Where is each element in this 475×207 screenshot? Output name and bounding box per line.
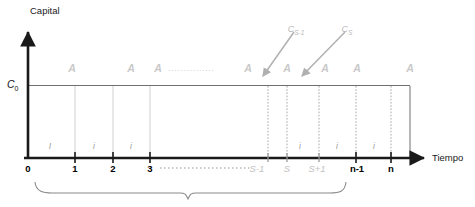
- period-gridlines: [75, 86, 150, 157]
- initial-capital-label: C0: [7, 79, 19, 92]
- interest-label-1: I: [49, 142, 51, 151]
- initial-capital-subscript: 0: [15, 85, 19, 92]
- axis-tick-label-0: 0: [25, 164, 30, 174]
- cash-flow-timeline-diagram: Capital Tiempo C0 ............... AAAAAA…: [0, 0, 475, 207]
- axis-tick-label-2: 2: [110, 164, 115, 174]
- axis-tick-label-s-1: S-1: [250, 164, 265, 174]
- interest-label-5: i: [336, 142, 338, 151]
- period-span-brace: [35, 182, 346, 199]
- annuity-label-6: A: [321, 63, 329, 74]
- axis-tick-label-3: 3: [147, 164, 152, 174]
- interest-label-3: i: [130, 142, 132, 151]
- diagram-vector-layer: [0, 0, 475, 207]
- annuity-label-4: A: [244, 63, 252, 74]
- axis-tick-label-s: S: [284, 164, 290, 174]
- tiempo-axis-label: Tiempo: [432, 153, 463, 163]
- axis-tick-label-s-1: S+1: [308, 164, 325, 174]
- callout-label-1: CS-1: [288, 25, 305, 36]
- callout-subscript: S: [348, 29, 352, 36]
- annuity-label-3: A: [154, 63, 162, 74]
- callout-label-2: CS: [342, 25, 353, 36]
- annuity-label-8: A: [406, 63, 414, 74]
- callout-subscript: S-1: [294, 29, 304, 36]
- annuity-leader-dots: ...............: [168, 64, 215, 73]
- annuity-label-7: A: [353, 63, 361, 74]
- axis-tick-label-n: n: [388, 164, 394, 174]
- annuity-label-2: A: [127, 63, 135, 74]
- axis-tick-label-n-1: n-1: [350, 164, 364, 174]
- capital-axis-label: Capital: [30, 6, 60, 16]
- interest-label-2: i: [93, 142, 95, 151]
- interest-label-6: i: [373, 142, 375, 151]
- initial-capital-symbol: C: [7, 78, 15, 90]
- annuity-label-1: A: [68, 63, 76, 74]
- annuity-label-5: A: [283, 63, 291, 74]
- axis-tick-label-1: 1: [72, 164, 77, 174]
- interest-label-4: i: [299, 142, 301, 151]
